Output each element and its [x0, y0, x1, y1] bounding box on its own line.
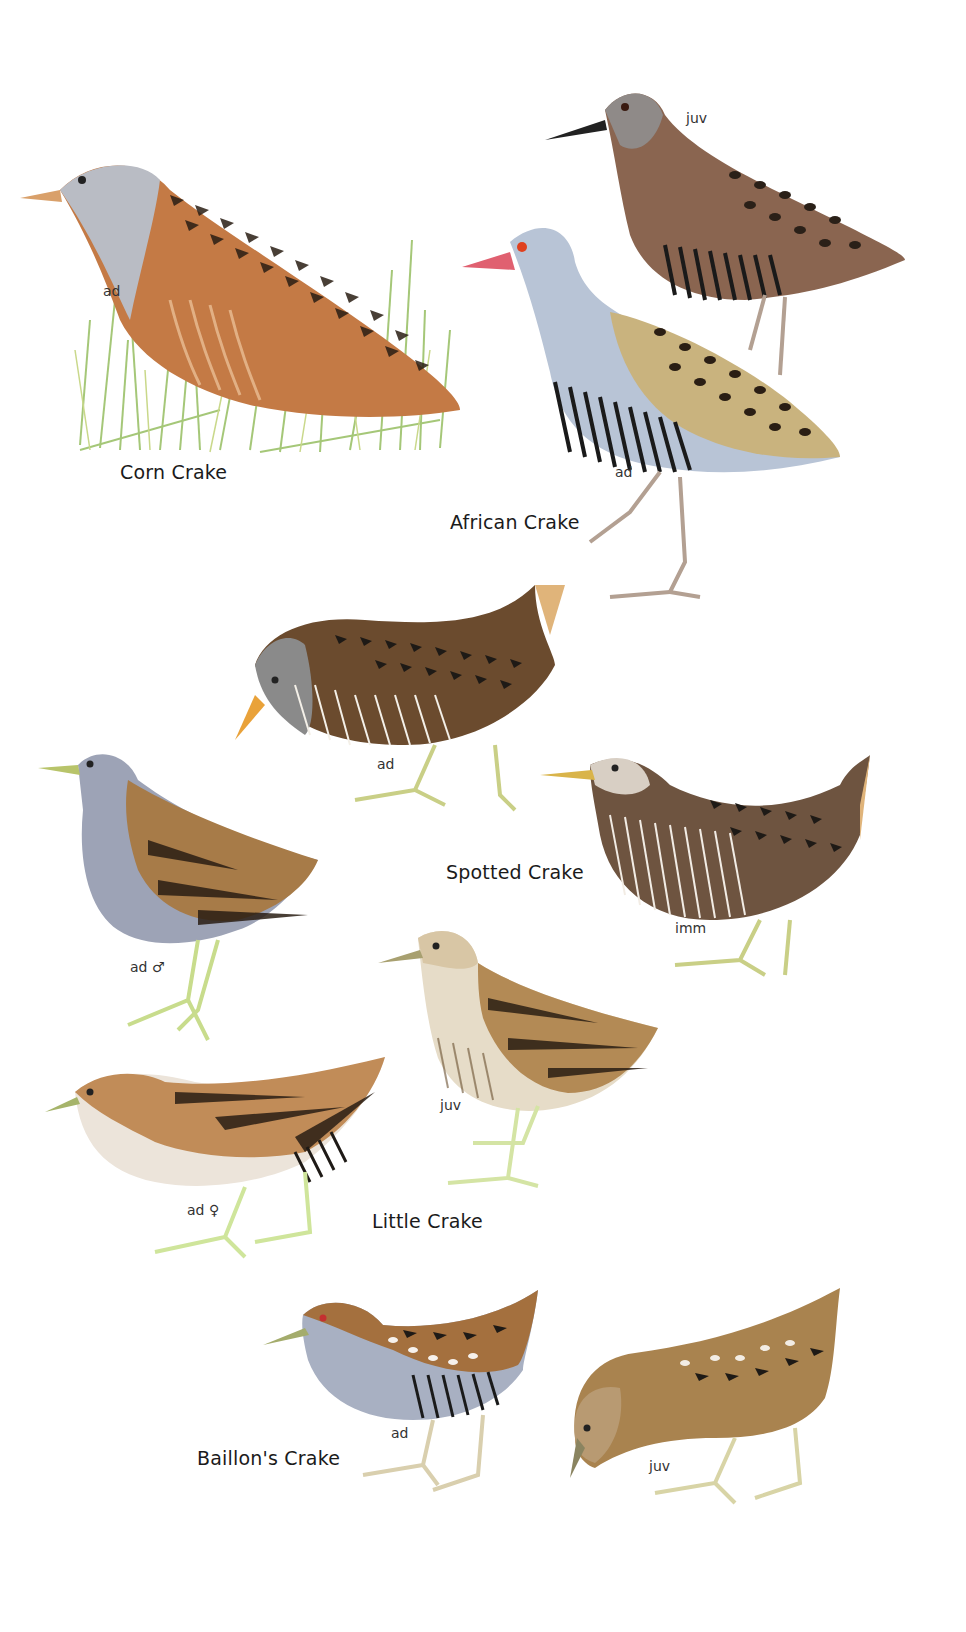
- species-name-baillons-crake: Baillon's Crake: [197, 1447, 340, 1469]
- species-name-little-crake: Little Crake: [372, 1210, 483, 1232]
- corn-crake-ad-illustration: [20, 150, 470, 460]
- figure-label-spotted-crake-imm: imm: [675, 920, 706, 936]
- figure-label-baillons-crake-ad: ad: [391, 1425, 408, 1441]
- species-name-african-crake: African Crake: [450, 511, 580, 533]
- little-crake-juv-illustration: [378, 928, 663, 1193]
- figure-label-little-crake-ad-male: ad ♂: [130, 959, 164, 975]
- figure-label-little-crake-juv: juv: [440, 1097, 461, 1113]
- baillons-crake-juv-illustration: [565, 1288, 850, 1513]
- species-name-spotted-crake: Spotted Crake: [446, 861, 584, 883]
- figure-label-african-crake-ad: ad: [615, 464, 632, 480]
- field-guide-plate: ad Corn Crake juv ad African Crake ad: [0, 0, 966, 1632]
- figure-label-corn-crake-ad: ad: [103, 283, 120, 299]
- figure-label-african-crake-juv: juv: [686, 110, 707, 126]
- little-crake-ad-female-illustration: [45, 1052, 395, 1270]
- figure-label-little-crake-ad-female: ad ♀: [187, 1202, 219, 1218]
- species-name-corn-crake: Corn Crake: [120, 461, 227, 483]
- figure-label-spotted-crake-ad: ad: [377, 756, 394, 772]
- figure-label-baillons-crake-juv: juv: [649, 1458, 670, 1474]
- african-crake-ad-illustration: [460, 222, 850, 617]
- little-crake-ad-male-illustration: [38, 750, 328, 1050]
